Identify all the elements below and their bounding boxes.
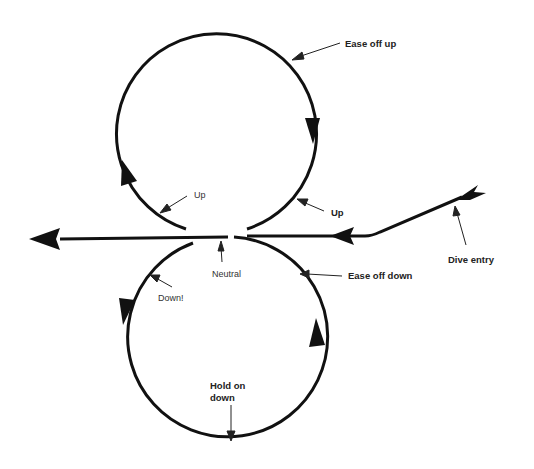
- bottom-loop: [119, 237, 328, 437]
- maneuver-diagram: Ease off up Up Up Neutral Ease off down …: [0, 0, 534, 469]
- label-up-left: Up: [194, 190, 206, 200]
- pointers: [150, 43, 466, 441]
- label-neutral: Neutral: [212, 269, 241, 279]
- top-loop: [116, 34, 320, 229]
- label-hold-on-down-1: Hold on: [210, 380, 246, 391]
- arrow-up-icon: [309, 318, 325, 347]
- label-dive-entry: Dive entry: [448, 254, 495, 265]
- dive-entry-arrow-icon: [456, 185, 486, 200]
- label-ease-off-down: Ease off down: [348, 270, 413, 281]
- label-ease-off-up: Ease off up: [345, 38, 396, 49]
- arrow-up-icon: [121, 160, 137, 186]
- arrow-down-icon: [119, 298, 135, 325]
- label-up-right: Up: [331, 207, 344, 218]
- exit-arrow-icon: [29, 228, 60, 250]
- label-down: Down!: [158, 293, 184, 303]
- label-hold-on-down-2: down: [210, 392, 235, 403]
